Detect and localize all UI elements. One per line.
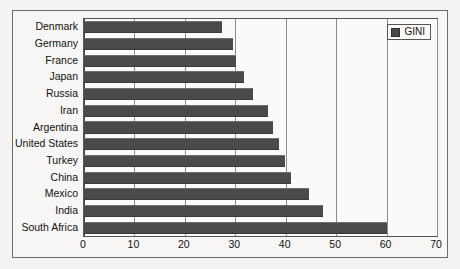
x-tick-label-10: 10 — [128, 239, 140, 250]
category-label-china: China — [51, 172, 78, 183]
category-label-iran: Iran — [60, 105, 78, 116]
x-tick-label-20: 20 — [178, 239, 190, 250]
category-label-united-states: United States — [15, 138, 78, 149]
x-axis-labels: 010203040506070 — [83, 239, 438, 255]
x-tick-label-60: 60 — [380, 239, 392, 250]
category-label-south-africa: South Africa — [21, 222, 78, 233]
bar-row — [84, 38, 437, 50]
bar-japan[interactable] — [84, 71, 244, 83]
bar-mexico[interactable] — [84, 188, 309, 200]
bar-germany[interactable] — [84, 38, 233, 50]
x-tick-label-50: 50 — [329, 239, 341, 250]
bar-row — [84, 155, 437, 167]
category-label-turkey: Turkey — [46, 155, 78, 166]
bar-china[interactable] — [84, 172, 291, 184]
bar-turkey[interactable] — [84, 155, 285, 167]
bar-row — [84, 138, 437, 150]
bar-iran[interactable] — [84, 105, 268, 117]
bar-united-states[interactable] — [84, 138, 279, 150]
legend-swatch-gini — [391, 28, 400, 37]
bar-row — [84, 71, 437, 83]
bar-south-africa[interactable] — [84, 222, 387, 234]
bar-row — [84, 21, 437, 33]
gridline-70 — [437, 19, 438, 236]
chart-legend[interactable]: GINI — [387, 24, 431, 40]
category-label-japan: Japan — [49, 71, 78, 82]
bar-row — [84, 188, 437, 200]
category-label-denmark: Denmark — [35, 21, 78, 32]
bar-argentina[interactable] — [84, 121, 273, 133]
bar-russia[interactable] — [84, 88, 253, 100]
category-label-mexico: Mexico — [45, 188, 78, 199]
bars-layer — [84, 19, 437, 236]
bar-row — [84, 88, 437, 100]
chart-screenshot: DenmarkGermanyFranceJapanRussiaIranArgen… — [0, 0, 460, 269]
x-tick-label-70: 70 — [430, 239, 442, 250]
x-tick-label-40: 40 — [279, 239, 291, 250]
bar-row — [84, 222, 437, 234]
plot-area: GINI — [83, 18, 438, 237]
legend-label-gini: GINI — [404, 27, 425, 37]
bar-denmark[interactable] — [84, 21, 222, 33]
bar-row — [84, 205, 437, 217]
category-label-argentina: Argentina — [33, 122, 78, 133]
chart-frame: DenmarkGermanyFranceJapanRussiaIranArgen… — [12, 10, 448, 258]
bar-row — [84, 121, 437, 133]
bar-row — [84, 55, 437, 67]
bar-france[interactable] — [84, 55, 236, 67]
category-axis-labels: DenmarkGermanyFranceJapanRussiaIranArgen… — [13, 18, 81, 237]
x-tick-label-0: 0 — [80, 239, 86, 250]
category-label-germany: Germany — [35, 38, 78, 49]
category-label-india: India — [55, 205, 78, 216]
bar-row — [84, 105, 437, 117]
bar-india[interactable] — [84, 205, 323, 217]
category-label-russia: Russia — [46, 88, 78, 99]
bar-row — [84, 172, 437, 184]
category-label-france: France — [45, 55, 78, 66]
x-tick-label-30: 30 — [228, 239, 240, 250]
